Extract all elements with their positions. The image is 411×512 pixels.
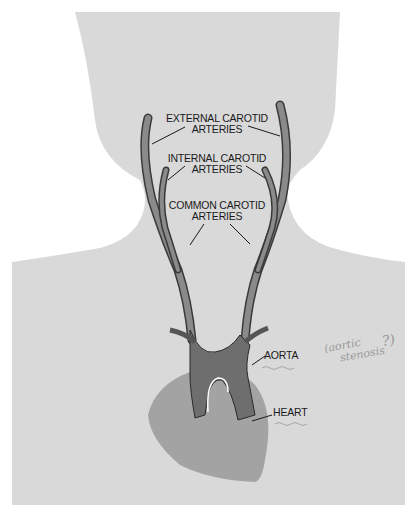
label-line: ARTERIES xyxy=(164,211,270,222)
label-aorta: AORTA xyxy=(264,350,298,361)
anatomy-illustration xyxy=(0,0,411,512)
label-line: ARTERIES xyxy=(164,164,270,175)
label-line: ARTERIES xyxy=(164,124,270,135)
label-internal-carotid: INTERNAL CAROTID ARTERIES xyxy=(164,153,270,175)
label-external-carotid: EXTERNAL CAROTID ARTERIES xyxy=(164,113,270,135)
diagram-canvas: EXTERNAL CAROTID ARTERIES INTERNAL CAROT… xyxy=(0,0,411,512)
label-heart: HEART xyxy=(273,407,307,418)
handwritten-question: ?) xyxy=(381,333,396,347)
label-common-carotid: COMMON CAROTID ARTERIES xyxy=(164,200,270,222)
